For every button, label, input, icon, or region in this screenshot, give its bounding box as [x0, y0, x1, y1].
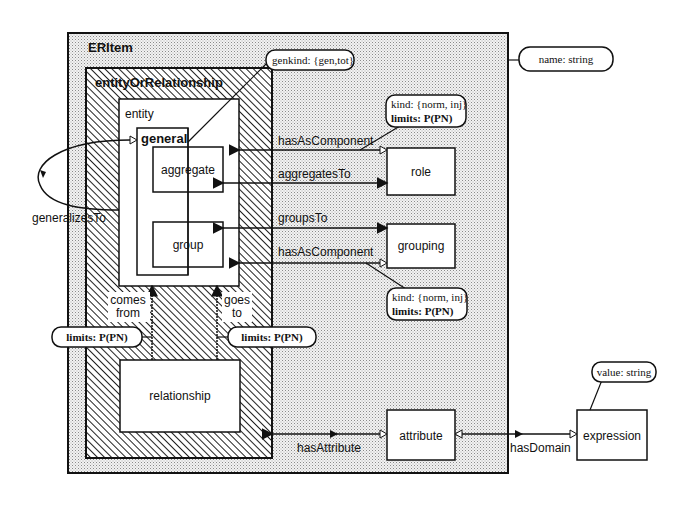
role-class: role	[387, 148, 455, 195]
comes-from-limits-annotation: limits: P(PN)	[52, 327, 152, 347]
expression-class: expression	[577, 410, 647, 460]
eritem-label: ERItem	[88, 40, 133, 55]
name-text: name: string	[539, 53, 594, 65]
name-annotation: name: string	[508, 47, 613, 71]
aggregates-to-label: aggregatesTo	[278, 167, 351, 181]
groups-to-label: groupsTo	[278, 211, 328, 225]
role-label: role	[411, 165, 431, 179]
comes-from-limits-text: limits: P(PN)	[66, 331, 128, 344]
grouping-class: grouping	[387, 224, 455, 268]
grouping-limits-text: limits: P(PN)	[392, 305, 454, 318]
has-domain-label: hasDomain	[510, 441, 571, 455]
relationship-class: relationship	[120, 360, 240, 432]
has-as-component-label-1: hasAsComponent	[278, 134, 374, 148]
genkind-text: genkind: {gen,tot}	[272, 54, 354, 66]
from-label: from	[116, 306, 140, 320]
relationship-label: relationship	[149, 389, 211, 403]
has-as-component-label-2: hasAsComponent	[278, 245, 374, 259]
generalizes-to-label: generalizesTo	[32, 211, 106, 225]
entity-label: entity	[125, 107, 154, 121]
to-label: to	[232, 306, 242, 320]
grouping-label: grouping	[398, 239, 445, 253]
attribute-label: attribute	[399, 429, 443, 443]
value-text: value: string	[597, 366, 652, 378]
value-annotation: value: string	[590, 362, 656, 410]
entity-or-relationship-label: entityOrRelationship	[95, 75, 223, 90]
expression-label: expression	[583, 429, 641, 443]
has-attribute-label: hasAttribute	[297, 441, 361, 455]
er-metamodel-diagram: ERItem entityOrRelationship entity gener…	[0, 0, 690, 511]
comes-label: comes	[110, 293, 145, 307]
goes-to-limits-text: limits: P(PN)	[241, 331, 303, 344]
goes-label: goes	[224, 293, 250, 307]
role-kind-text: kind: {norm, inj}	[391, 98, 467, 110]
general-container: general	[137, 128, 188, 275]
attribute-class: attribute	[387, 410, 455, 460]
role-limits-text: limits: P(PN)	[391, 112, 453, 125]
general-label: general	[141, 131, 187, 146]
goes-to-limits-annotation: limits: P(PN)	[217, 327, 316, 347]
grouping-kind-text: kind: {norm, inj}	[392, 291, 468, 303]
